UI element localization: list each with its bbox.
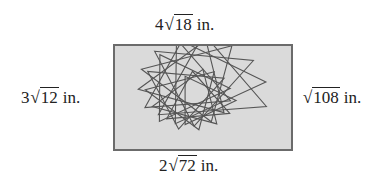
bottom-radicand: 72	[178, 155, 197, 175]
radical-icon: √72	[169, 156, 197, 176]
bottom-unit: in.	[201, 156, 218, 175]
left-coefficient: 3	[21, 88, 30, 107]
top-unit: in.	[197, 15, 214, 34]
left-unit: in.	[63, 88, 80, 107]
triangle-spiral-pattern	[115, 46, 290, 148]
top-coefficient: 4	[155, 15, 164, 34]
right-side-label: √108in.	[302, 88, 361, 108]
bottom-side-label: 2√72in.	[159, 156, 218, 176]
radical-icon: √108	[303, 88, 340, 108]
top-radicand: 18	[174, 14, 193, 34]
left-radicand: 12	[40, 87, 59, 107]
top-side-label: 4√18in.	[155, 15, 214, 35]
rectangle-figure	[113, 44, 293, 151]
radical-icon: √12	[31, 88, 59, 108]
radical-icon: √18	[165, 15, 193, 35]
right-radicand: 108	[312, 87, 340, 107]
bottom-coefficient: 2	[159, 156, 168, 175]
left-side-label: 3√12in.	[21, 88, 80, 108]
right-unit: in.	[344, 88, 361, 107]
